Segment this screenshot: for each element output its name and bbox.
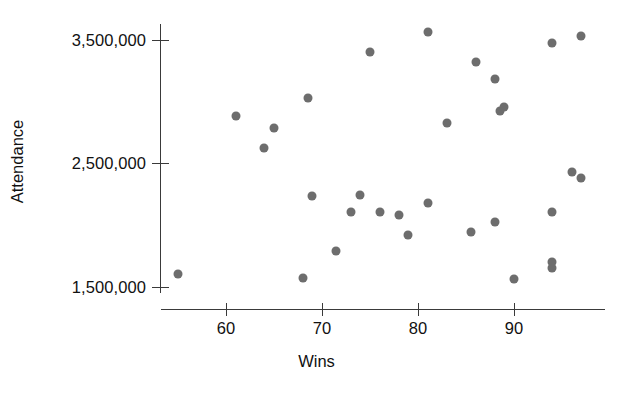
data-point (423, 198, 432, 207)
data-point (500, 103, 509, 112)
data-point (303, 93, 312, 102)
data-point (375, 208, 384, 217)
x-tick-label: 90 (505, 319, 523, 338)
data-point (490, 75, 499, 84)
data-point (466, 228, 475, 237)
x-tick-label: 80 (409, 319, 427, 338)
y-tick-label: 3,500,000 (72, 30, 146, 49)
scatter-chart: 1,500,0002,500,0003,500,000 60708090 Att… (0, 0, 633, 396)
data-point (404, 230, 413, 239)
plot-area (161, 12, 605, 310)
data-point (577, 173, 586, 182)
data-point (366, 47, 375, 56)
data-point (548, 208, 557, 217)
data-point (356, 191, 365, 200)
x-tick-label: 60 (217, 319, 235, 338)
data-point (231, 112, 240, 121)
data-point (567, 167, 576, 176)
data-point (548, 39, 557, 48)
data-point (260, 144, 269, 153)
data-point (548, 263, 557, 272)
data-point (174, 270, 183, 279)
y-tick-label: 2,500,000 (72, 154, 146, 173)
y-axis-title: Attendance (8, 87, 27, 237)
y-tick-label: 1,500,000 (72, 277, 146, 296)
x-tick-label: 70 (313, 319, 331, 338)
data-point (471, 57, 480, 66)
x-axis-title: Wins (0, 352, 633, 371)
data-point (510, 275, 519, 284)
data-point (394, 210, 403, 219)
data-point (577, 31, 586, 40)
data-point (490, 218, 499, 227)
data-point (270, 124, 279, 133)
data-point (332, 246, 341, 255)
data-point (308, 192, 317, 201)
data-point (298, 273, 307, 282)
data-point (346, 208, 355, 217)
data-point (442, 119, 451, 128)
data-point (423, 28, 432, 37)
